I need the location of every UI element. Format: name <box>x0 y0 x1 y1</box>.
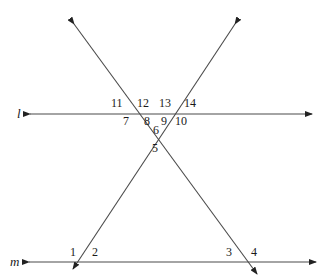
angle-label-9: 9 <box>161 114 167 128</box>
angle-label-10: 10 <box>175 114 187 128</box>
angle-label-14: 14 <box>184 96 196 110</box>
angle-label-13: 13 <box>159 96 171 110</box>
angle-label-4: 4 <box>251 245 257 259</box>
angle-label-8: 8 <box>144 114 150 128</box>
angle-label-6: 6 <box>153 123 159 137</box>
angle-label-5: 5 <box>152 141 158 155</box>
line-m-label: m <box>10 254 19 269</box>
transversal-descending <box>74 24 257 274</box>
angle-label-3: 3 <box>226 245 232 259</box>
diagram-canvas: l m 1 2 3 4 5 6 7 8 9 10 11 12 13 14 <box>0 0 334 280</box>
line-l-label: l <box>17 106 21 121</box>
angle-label-11: 11 <box>111 96 123 110</box>
angle-label-7: 7 <box>123 114 129 128</box>
angle-label-2: 2 <box>92 245 98 259</box>
angle-label-12: 12 <box>137 96 149 110</box>
angle-label-1: 1 <box>70 245 76 259</box>
